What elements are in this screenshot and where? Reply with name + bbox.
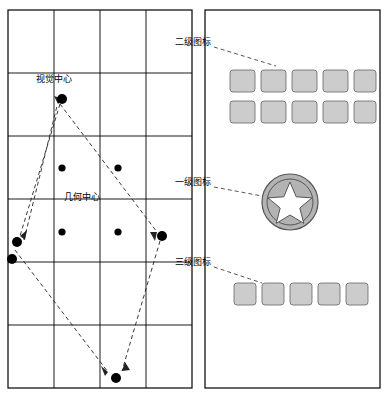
level2-icon[interactable] — [354, 70, 376, 92]
right-dot — [157, 231, 167, 241]
level2-icon[interactable] — [292, 70, 317, 92]
level3-label: 三级图标 — [175, 255, 211, 268]
level2-icon[interactable] — [230, 70, 255, 92]
level2-icon[interactable] — [230, 101, 255, 123]
visual-center-dot — [57, 94, 67, 104]
mid-right-dot — [114, 164, 121, 171]
level2-icon[interactable] — [261, 70, 286, 92]
visual-center-label: 视觉中心 — [36, 72, 72, 85]
geometric-center-label: 几何中心 — [64, 190, 100, 203]
level1-icon[interactable] — [262, 174, 318, 230]
diagram-canvas: 视觉中心 几何中心 二级图标 一级图标 三级图标 — [0, 0, 387, 398]
level2-icon[interactable] — [323, 101, 348, 123]
level3-icon[interactable] — [234, 283, 256, 305]
level2-icon[interactable] — [261, 101, 286, 123]
level3-icon[interactable] — [346, 283, 368, 305]
center-right-dot — [114, 228, 121, 235]
level3-icon[interactable] — [318, 283, 340, 305]
left-dot-lower — [7, 254, 17, 264]
level2-label: 二级图标 — [175, 35, 211, 48]
diagram-svg — [0, 0, 387, 398]
level3-icon[interactable] — [262, 283, 284, 305]
level1-label: 一级图标 — [175, 175, 211, 188]
level3-icon-group — [234, 283, 368, 305]
level2-icon[interactable] — [292, 101, 317, 123]
level2-icon[interactable] — [323, 70, 348, 92]
mid-left-dot — [58, 164, 65, 171]
bottom-dot — [111, 373, 121, 383]
icon-hierarchy-panel — [205, 10, 380, 388]
geometric-center-dot — [58, 228, 65, 235]
level2-icon[interactable] — [354, 101, 376, 123]
level3-icon[interactable] — [290, 283, 312, 305]
left-dot-upper — [12, 237, 22, 247]
